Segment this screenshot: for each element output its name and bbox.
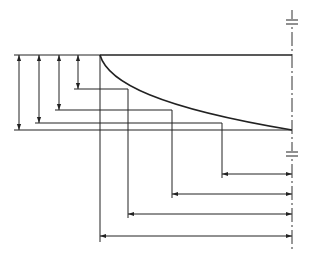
vertical-dimensions xyxy=(19,55,78,130)
dimension-diagram xyxy=(0,0,317,260)
profile-curve xyxy=(100,55,292,130)
horizontal-dimensions xyxy=(100,174,292,236)
profile xyxy=(100,55,292,130)
